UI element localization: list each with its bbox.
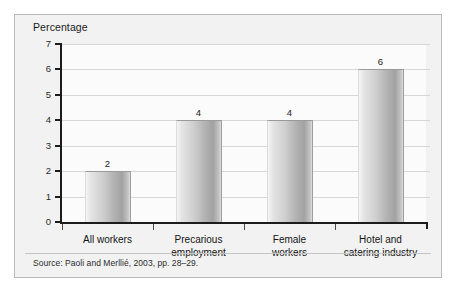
bar bbox=[85, 171, 131, 222]
bar-value-label: 6 bbox=[358, 56, 404, 67]
source-divider bbox=[25, 253, 431, 254]
x-axis-tick bbox=[244, 224, 245, 230]
y-axis-tick bbox=[55, 119, 61, 121]
y-axis-tick bbox=[55, 68, 61, 70]
x-axis-category-label-line: Hotel and bbox=[321, 234, 441, 247]
y-axis-tick bbox=[55, 94, 61, 96]
y-axis-tick bbox=[55, 145, 61, 147]
y-axis-tick-label: 6 bbox=[35, 63, 51, 74]
y-axis-tick-label: 7 bbox=[35, 38, 51, 49]
x-axis-end-cap bbox=[426, 222, 428, 229]
y-axis-tick-label: 5 bbox=[35, 89, 51, 100]
gridline bbox=[62, 44, 430, 45]
y-axis-tick bbox=[55, 170, 61, 172]
y-axis-tick-label: 3 bbox=[35, 140, 51, 151]
bar-value-label: 2 bbox=[85, 158, 131, 169]
y-axis-tick-label: 4 bbox=[35, 114, 51, 125]
y-axis-tick bbox=[55, 196, 61, 198]
bar bbox=[358, 69, 404, 222]
figure-container: Percentage 76543210 2446 All workersPrec… bbox=[14, 14, 442, 278]
x-axis-tick bbox=[153, 224, 154, 230]
bar bbox=[176, 120, 222, 222]
source-citation: Source: Paoli and Merllié, 2003, pp. 28–… bbox=[33, 258, 198, 268]
bar-value-label: 4 bbox=[176, 107, 222, 118]
plot-area bbox=[62, 44, 426, 222]
x-axis-tick bbox=[62, 224, 63, 230]
y-axis-tick bbox=[55, 43, 61, 45]
y-axis-title: Percentage bbox=[33, 21, 88, 33]
bar bbox=[267, 120, 313, 222]
bar-value-label: 4 bbox=[267, 107, 313, 118]
x-axis-category-label: Hotel andcatering industry bbox=[321, 234, 441, 259]
y-axis-tick-label: 0 bbox=[35, 216, 51, 227]
x-axis-tick bbox=[335, 224, 336, 230]
y-axis-tick-label: 1 bbox=[35, 191, 51, 202]
y-axis-tick-label: 2 bbox=[35, 165, 51, 176]
